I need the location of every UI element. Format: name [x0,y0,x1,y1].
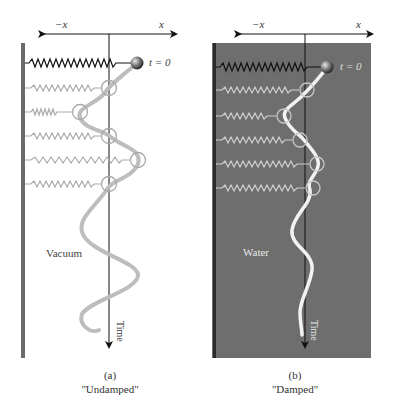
spring-3 [25,133,101,139]
time-label: Time [309,320,320,350]
pos-x-label: x [356,18,361,30]
caption-letter: (b) [240,368,350,382]
spring-5 [25,181,101,187]
neg-x-label: −x [55,18,67,30]
caption-b: (b) "Damped" [240,368,350,396]
diagram-canvas [0,0,395,407]
mass-ball-t0 [131,57,144,70]
caption-a: (a) "Undamped" [55,368,165,396]
wall [213,43,216,358]
neg-x-label: −x [252,18,264,30]
t0-label: t = 0 [149,56,170,68]
medium-label: Vacuum [46,247,82,259]
spring-2 [25,109,72,115]
caption-title: "Damped" [240,382,350,396]
spring-1 [25,85,101,91]
spring-t0 [25,59,131,67]
spring-4 [25,157,130,163]
panel-undamped [21,34,176,358]
pos-x-label: x [159,18,164,30]
panel-damped [212,34,372,358]
wall [21,43,25,358]
mass-ball-t0 [321,61,334,74]
t0-label: t = 0 [340,60,361,72]
medium-label: Water [243,246,269,258]
caption-title: "Undamped" [55,382,165,396]
time-label: Time [115,321,126,351]
caption-letter: (a) [55,368,165,382]
